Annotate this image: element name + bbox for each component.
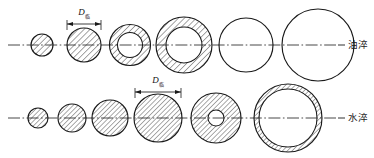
row-label-group-water-quench: 水淬 <box>338 112 368 123</box>
cross-section-water-quench-2 <box>58 104 86 132</box>
row-label-oil-quench: 油淬 <box>348 39 368 50</box>
dimension-label-subscript: 临 <box>159 81 164 88</box>
dimension-arrow-right <box>175 90 181 94</box>
dimension-label: D临 <box>151 75 164 88</box>
diagram-row-oil-quench: D临油淬 <box>8 7 368 81</box>
rows-layer: D临油淬D临水淬 <box>8 7 368 152</box>
dimension-oil-quench: D临 <box>67 7 101 30</box>
cross-section-water-quench-1 <box>28 108 48 128</box>
dimension-arrow-right <box>95 22 101 26</box>
diagram-canvas: D临油淬D临水淬 <box>0 0 374 158</box>
cross-section-water-quench-4 <box>134 94 182 142</box>
dimension-label-subscript: 临 <box>85 13 90 20</box>
row-label-group-oil-quench: 油淬 <box>338 39 368 50</box>
dimension-arrow-left <box>135 90 141 94</box>
row-label-water-quench: 水淬 <box>348 112 368 123</box>
cross-section-oil-quench-2 <box>67 28 101 62</box>
cross-section-oil-quench-1 <box>31 34 53 56</box>
dimension-label: D临 <box>77 7 90 20</box>
hardenability-diagram: D临油淬D临水淬 <box>0 0 374 158</box>
diagram-row-water-quench: D临水淬 <box>8 75 368 152</box>
dimension-arrow-left <box>67 22 73 26</box>
cross-section-water-quench-3 <box>92 100 128 136</box>
